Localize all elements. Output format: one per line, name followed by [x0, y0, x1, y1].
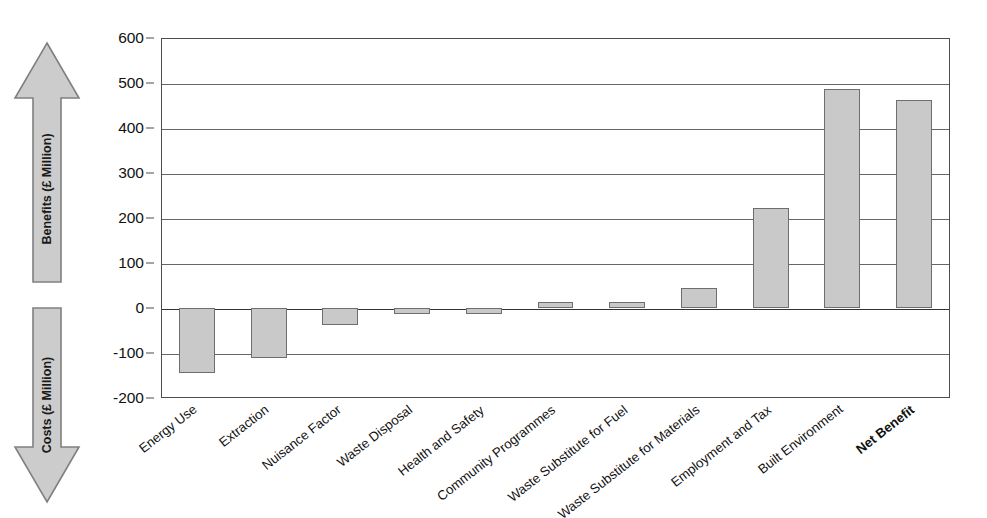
- x-axis-label-nuisance-factor: Nuisance Factor: [259, 402, 344, 473]
- y-axis-tick-mark: [146, 128, 154, 129]
- y-axis-tick-mark: [146, 218, 154, 219]
- x-axis-label-net-benefit: Net Benefit: [853, 402, 917, 457]
- y-axis: 6005004003002001000-100-200: [88, 38, 154, 398]
- y-axis-tick-label: 400: [118, 119, 144, 137]
- y-axis-tick-mark: [146, 398, 154, 399]
- x-axis-label-waste-substitute-for-fuel: Waste Substitute for Fuel: [505, 402, 631, 505]
- costs-arrow: Costs (£ Million): [12, 305, 82, 505]
- bar-net-benefit: [896, 100, 932, 308]
- y-axis-tick-label: 0: [135, 299, 144, 317]
- bar-extraction: [251, 308, 287, 358]
- y-axis-tick-label: -200: [113, 389, 144, 407]
- bar-nuisance-factor: [322, 308, 358, 325]
- bar-waste-substitute-for-materials: [681, 288, 717, 308]
- bar-energy-use: [179, 308, 215, 373]
- y-axis-tick-label: -100: [113, 344, 144, 362]
- y-axis-tick-mark: [146, 83, 154, 84]
- y-axis-tick-label: 600: [118, 29, 144, 47]
- bar-health-and-safety: [466, 308, 502, 314]
- x-axis-label-extraction: Extraction: [216, 402, 271, 450]
- y-axis-tick-mark: [146, 308, 154, 309]
- bar-community-programmes: [538, 302, 574, 308]
- bar-built-environment: [824, 89, 860, 308]
- x-axis-label-waste-substitute-for-materials: Waste Substitute for Materials: [555, 402, 702, 518]
- up-arrow-icon: [12, 40, 82, 285]
- y-axis-tick-mark: [146, 353, 154, 354]
- x-axis-label-community-programmes: Community Programmes: [434, 402, 558, 504]
- y-axis-tick-label: 200: [118, 209, 144, 227]
- bars-layer: [161, 38, 950, 398]
- bar-employment-and-tax: [753, 208, 789, 308]
- y-axis-tick-label: 500: [118, 74, 144, 92]
- y-axis-tick-label: 300: [118, 164, 144, 182]
- down-arrow-icon: [12, 305, 82, 505]
- bar-waste-substitute-for-fuel: [609, 302, 645, 308]
- y-axis-tick-mark: [146, 38, 154, 39]
- y-axis-tick-mark: [146, 263, 154, 264]
- bar-waste-disposal: [394, 308, 430, 314]
- y-axis-tick-label: 100: [118, 254, 144, 272]
- benefits-arrow: Benefits (£ Million): [12, 40, 82, 285]
- y-axis-tick-mark: [146, 173, 154, 174]
- x-axis-label-energy-use: Energy Use: [136, 402, 200, 456]
- cost-benefit-bar-chart: Benefits (£ Million) Costs (£ Million) 6…: [0, 0, 987, 518]
